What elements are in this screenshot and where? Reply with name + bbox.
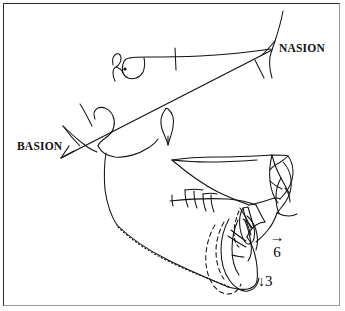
pterygomaxillary-fissure (161, 108, 174, 145)
superimposition-tick (232, 255, 244, 257)
symphysis-solid-inner (232, 220, 239, 275)
nasal-floor (270, 181, 282, 189)
anterior-cranial-base (130, 49, 271, 58)
hard-palate (170, 199, 256, 205)
maxillary-molar-2b (211, 195, 214, 212)
right-arrow-icon: → (262, 232, 292, 244)
occipital-curve (98, 139, 158, 157)
horizontal-movement-value: 6 (262, 244, 292, 260)
mandible-border-stippled (118, 227, 230, 287)
basion-nasion-line (61, 50, 272, 158)
sigmoid-notch (276, 178, 281, 213)
sella-point-marker (123, 67, 126, 70)
mandible-symphysis (228, 281, 257, 289)
basion-spur-upper (80, 104, 92, 126)
mandibular-ramus-anterior (256, 205, 265, 222)
cephalometric-figure: NASION BASION → 6 ↓3 (0, 0, 345, 311)
zygomatic-arch (172, 160, 257, 162)
symphysis-dashed-outline (206, 225, 241, 294)
vertical-movement-annotation: ↓3 (258, 273, 273, 290)
mandible-body-superior (104, 153, 117, 225)
basion-label: BASION (17, 140, 62, 152)
maxillary-molar-2 (203, 194, 206, 211)
maxillary-molar-1 (185, 190, 188, 207)
nasion-label: NASION (279, 42, 325, 54)
down-arrow-icon: ↓ (258, 274, 265, 289)
vertical-movement-value: 3 (265, 273, 273, 289)
symphysis-dashed-inner (216, 222, 224, 279)
mandibular-ramus-posterior (277, 213, 297, 216)
mandible-body-inferior (117, 225, 228, 287)
basion-arrowhead (61, 146, 74, 158)
cranial-base-tick (175, 48, 176, 70)
nasal-bone (255, 60, 264, 78)
maxillary-premolar-b (203, 193, 217, 194)
horizontal-movement-annotation: → 6 (262, 232, 292, 260)
maxillary-premolar (185, 189, 203, 190)
coronoid-process (272, 155, 289, 193)
